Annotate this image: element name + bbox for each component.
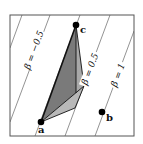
contour-label-group: β = −0.5 bbox=[22, 29, 46, 71]
contour-label-group: β = 0.5 bbox=[79, 50, 101, 87]
point-c-label: c bbox=[80, 24, 86, 35]
contour-label-group: β = 1 bbox=[109, 61, 128, 90]
point-b-label: b bbox=[106, 112, 113, 123]
diagram-canvas: β = −0.5β = 0.5β = 1 abc bbox=[0, 0, 143, 144]
contour-label: β = 0.5 bbox=[79, 52, 100, 87]
point-b-marker bbox=[99, 109, 106, 116]
contour-label: β = 1 bbox=[109, 62, 127, 89]
contour-line bbox=[10, 15, 22, 48]
point-a-label: a bbox=[38, 124, 45, 135]
contour-label: β = −0.5 bbox=[22, 29, 46, 71]
point-c-marker bbox=[73, 22, 80, 29]
beta-contour-diagram: β = −0.5β = 0.5β = 1 abc bbox=[0, 0, 143, 144]
